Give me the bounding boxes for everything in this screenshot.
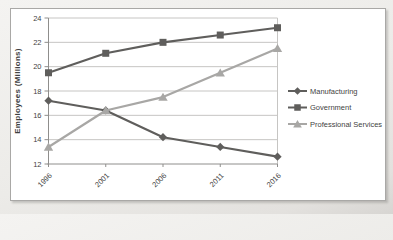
- data-point-government: [217, 32, 224, 39]
- data-point-government: [102, 50, 109, 57]
- chart-card: 1214161820222419962001200620112016Employ…: [10, 8, 386, 201]
- data-point-manufacturing: [273, 153, 281, 161]
- line-chart: 1214161820222419962001200620112016Employ…: [11, 9, 385, 200]
- legend-label: Manufacturing: [310, 87, 358, 96]
- x-tick-label: 1996: [36, 171, 54, 189]
- legend-label: Government: [310, 103, 352, 112]
- data-point-manufacturing: [216, 143, 224, 151]
- y-tick-label: 14: [33, 135, 41, 144]
- y-tick-label: 16: [33, 111, 41, 120]
- legend-label: Professional Services: [310, 120, 382, 129]
- data-point-government: [160, 39, 167, 46]
- x-tick-label: 2016: [265, 171, 283, 189]
- legend-marker: [294, 104, 301, 111]
- data-point-professional-services: [273, 44, 282, 52]
- data-point-government: [45, 69, 52, 76]
- y-tick-label: 20: [33, 62, 41, 71]
- y-tick-label: 22: [33, 38, 41, 47]
- series-line-government: [49, 28, 278, 73]
- x-tick-label: 2006: [150, 171, 168, 189]
- screenshot-stage: 1214161820222419962001200620112016Employ…: [0, 0, 393, 214]
- legend-marker: [294, 87, 302, 95]
- y-axis-title: Employees (Millions): [13, 48, 22, 134]
- legend-item-manufacturing: Manufacturing: [288, 87, 358, 96]
- legend-item-government: Government: [288, 103, 352, 112]
- series-line-manufacturing: [49, 101, 278, 157]
- y-tick-label: 24: [33, 14, 41, 23]
- legend-item-professional-services: Professional Services: [288, 120, 382, 129]
- y-tick-label: 12: [33, 160, 41, 169]
- data-point-manufacturing: [44, 97, 52, 105]
- x-tick-label: 2001: [93, 171, 111, 189]
- x-tick-label: 2011: [208, 171, 226, 189]
- data-point-government: [274, 24, 281, 31]
- y-tick-label: 18: [33, 87, 41, 96]
